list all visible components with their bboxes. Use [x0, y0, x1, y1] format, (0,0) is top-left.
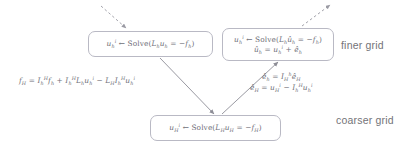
coarse-grid-solve-box[interactable]: uHi ← Solve(LHuH = −fH) — [150, 115, 281, 141]
fine-left-equation: uhi ← Solve(Lhuh = −fh) — [107, 39, 195, 48]
arrow-outgoing-dashed — [302, 5, 330, 26]
fine-grid-initial-solve-box[interactable]: uhi ← Solve(Lhuh = −fh) — [88, 31, 213, 57]
fine-grid-corrected-solve-box[interactable]: uhi ← Solve(Lhûh = −fh) ûh = uhi + êh — [222, 28, 334, 61]
coarse-equation: uHi ← Solve(LHuH = −fH) — [169, 123, 261, 132]
error-correction-equations: êh = IHhêH êH = uHi − IhHuhi — [250, 72, 313, 93]
coarser-grid-label: coarser grid — [336, 114, 394, 126]
fine-right-equation-line1: uhi ← Solve(Lhûh = −fh) — [234, 35, 322, 44]
fine-right-equation-line2: ûh = uhi + êh — [254, 45, 302, 54]
multigrid-diagram: uhi ← Solve(Lhuh = −fh) uhi ← Solve(Lhûh… — [0, 0, 418, 149]
prolongation-equation-line2: êH = uHi − IhHuhi — [250, 83, 313, 94]
arrow-incoming-dashed — [101, 6, 126, 28]
arrow-restriction-solid — [160, 58, 214, 114]
prolongation-equation-line1: êh = IHhêH — [250, 72, 313, 83]
finer-grid-label: finer grid — [341, 39, 384, 51]
coarse-rhs-equation: fH = IhHfh + IhHLhuhi − LHIhHuhi — [19, 76, 135, 87]
